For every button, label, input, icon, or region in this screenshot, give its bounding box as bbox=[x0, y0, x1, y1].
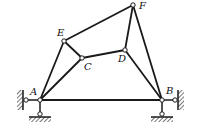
link-ec bbox=[64, 41, 82, 58]
link-fb bbox=[133, 5, 162, 100]
link-ef bbox=[64, 5, 133, 41]
pin-joint-icon bbox=[173, 98, 177, 102]
linkage-diagram: ABCDEF bbox=[0, 0, 198, 139]
support-b-ground bbox=[151, 100, 173, 122]
label-d: D bbox=[117, 53, 126, 64]
joint-e bbox=[62, 39, 66, 43]
link-ae bbox=[40, 41, 64, 100]
label-f: F bbox=[138, 0, 147, 11]
joints bbox=[38, 3, 164, 102]
link-db bbox=[125, 50, 162, 100]
link-ac bbox=[40, 58, 82, 100]
joint-f bbox=[131, 3, 135, 7]
joint-labels: ABCDEF bbox=[29, 0, 173, 97]
label-e: E bbox=[56, 27, 65, 38]
link-df bbox=[125, 5, 133, 50]
pin-joint-icon bbox=[38, 112, 42, 116]
joint-a bbox=[38, 98, 42, 102]
support-a-ground bbox=[29, 100, 51, 122]
joint-c bbox=[80, 56, 84, 60]
label-a: A bbox=[29, 86, 37, 97]
joint-b bbox=[160, 98, 164, 102]
joint-d bbox=[123, 48, 127, 52]
links bbox=[40, 5, 162, 100]
label-c: C bbox=[84, 61, 92, 72]
pin-joint-icon bbox=[160, 112, 164, 116]
pin-joint-icon bbox=[24, 98, 28, 102]
label-b: B bbox=[165, 85, 173, 96]
